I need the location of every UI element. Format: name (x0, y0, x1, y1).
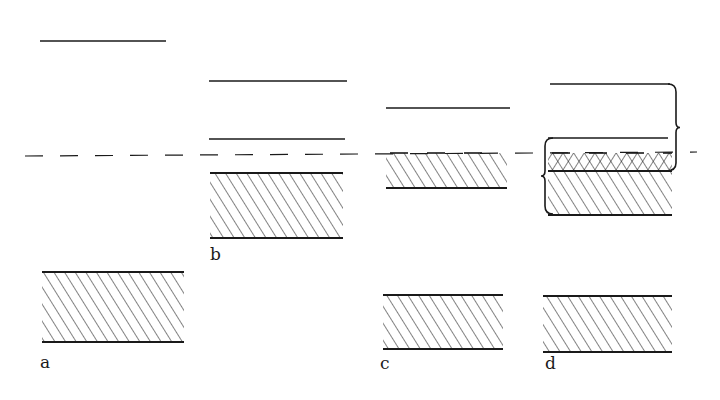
panel-b (209, 81, 347, 238)
panel-c (383, 108, 510, 349)
panel-a (40, 41, 184, 342)
hatched-band (543, 296, 672, 352)
panel-d (541, 84, 680, 352)
panel-label-d: d (545, 355, 556, 372)
hatched-band (548, 171, 672, 215)
hatched-band (210, 173, 343, 238)
crosshatched-band (548, 153, 672, 171)
band-diagram (0, 0, 720, 400)
hatched-band (386, 153, 507, 188)
panel-label-b: b (210, 246, 221, 263)
hatched-band (383, 295, 503, 349)
panel-label-a: a (40, 354, 50, 371)
hatched-band (42, 272, 184, 342)
panel-label-c: c (380, 355, 390, 372)
